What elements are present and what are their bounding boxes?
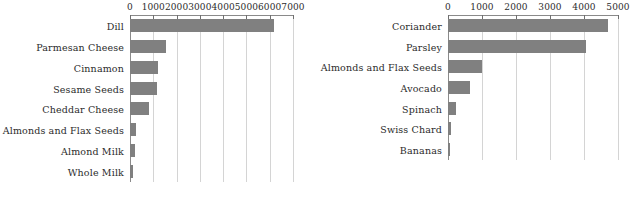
category-label: Parsley bbox=[406, 41, 442, 52]
bar-left-0 bbox=[130, 19, 274, 32]
x-tick-label-left-0: 0 bbox=[127, 2, 133, 13]
category-label: Dill bbox=[107, 20, 124, 31]
bar-right-5 bbox=[448, 122, 451, 135]
x-tick-label-left-5000: 5000 bbox=[235, 2, 258, 13]
x-tick-label-right-1000: 1000 bbox=[470, 2, 493, 13]
x-tick-label-left-6000: 6000 bbox=[258, 2, 281, 13]
chart-panel-right: 010002000300040005000 CorianderParsleyAl… bbox=[310, 0, 637, 198]
x-tick-label-right-3000: 3000 bbox=[538, 2, 561, 13]
bar-right-6 bbox=[448, 143, 450, 156]
bar-left-4 bbox=[130, 102, 149, 115]
x-tick-label-right-5000: 5000 bbox=[606, 2, 629, 13]
x-tick-label-left-7000: 7000 bbox=[281, 2, 304, 13]
plot-area-left: 01000200030004000500060007000 DillParmes… bbox=[130, 15, 293, 182]
category-label: Cheddar Cheese bbox=[42, 103, 124, 114]
bar-right-1 bbox=[448, 40, 586, 53]
gridline-left-7000 bbox=[293, 15, 294, 182]
x-tick-label-left-2000: 2000 bbox=[165, 2, 188, 13]
x-tick-label-right-2000: 2000 bbox=[504, 2, 527, 13]
bar-right-2 bbox=[448, 60, 482, 73]
category-label: Whole Milk bbox=[68, 166, 124, 177]
category-label: Coriander bbox=[392, 20, 442, 31]
x-tick-label-right-4000: 4000 bbox=[572, 2, 595, 13]
category-label: Cinnamon bbox=[74, 62, 124, 73]
bar-row: Sesame Seeds bbox=[130, 82, 293, 95]
bar-row: Cheddar Cheese bbox=[130, 102, 293, 115]
gridline-right-5000 bbox=[618, 15, 619, 160]
x-tick-right-5000 bbox=[618, 15, 619, 19]
category-label: Swiss Chard bbox=[380, 123, 442, 134]
bar-left-1 bbox=[130, 40, 166, 53]
bar-row: Parmesan Cheese bbox=[130, 40, 293, 53]
bar-row: Cinnamon bbox=[130, 61, 293, 74]
bar-row: Almonds and Flax Seeds bbox=[448, 60, 618, 73]
plot-area-right: 010002000300040005000 CorianderParsleyAl… bbox=[448, 15, 618, 160]
bar-row: Coriander bbox=[448, 19, 618, 32]
x-tick-left-7000 bbox=[293, 15, 294, 19]
bar-right-0 bbox=[448, 19, 608, 32]
chart-panel-left: 01000200030004000500060007000 DillParmes… bbox=[0, 0, 310, 198]
x-tick-label-left-3000: 3000 bbox=[188, 2, 211, 13]
bar-left-3 bbox=[130, 82, 157, 95]
category-label: Sesame Seeds bbox=[53, 83, 124, 94]
bar-row: Bananas bbox=[448, 143, 618, 156]
category-label: Almonds and Flax Seeds bbox=[3, 124, 124, 135]
bars-layer-right: CorianderParsleyAlmonds and Flax SeedsAv… bbox=[448, 15, 618, 160]
bar-left-2 bbox=[130, 61, 158, 74]
category-label: Bananas bbox=[400, 144, 442, 155]
category-label: Spinach bbox=[402, 103, 442, 114]
bar-right-3 bbox=[448, 81, 470, 94]
bar-row: Dill bbox=[130, 19, 293, 32]
bar-row: Almond Milk bbox=[130, 144, 293, 157]
bar-row: Swiss Chard bbox=[448, 122, 618, 135]
x-tick-label-right-0: 0 bbox=[445, 2, 451, 13]
bar-left-6 bbox=[130, 144, 135, 157]
category-label: Almonds and Flax Seeds bbox=[321, 61, 442, 72]
x-tick-label-left-4000: 4000 bbox=[211, 2, 234, 13]
x-tick-label-left-1000: 1000 bbox=[142, 2, 165, 13]
bar-row: Parsley bbox=[448, 40, 618, 53]
category-label: Parmesan Cheese bbox=[36, 41, 124, 52]
bar-left-7 bbox=[130, 165, 133, 178]
bar-row: Avocado bbox=[448, 81, 618, 94]
bar-right-4 bbox=[448, 102, 456, 115]
bar-row: Whole Milk bbox=[130, 165, 293, 178]
category-label: Almond Milk bbox=[61, 145, 124, 156]
bar-row: Almonds and Flax Seeds bbox=[130, 123, 293, 136]
bar-row: Spinach bbox=[448, 102, 618, 115]
bars-layer-left: DillParmesan CheeseCinnamonSesame SeedsC… bbox=[130, 15, 293, 182]
bar-left-5 bbox=[130, 123, 136, 136]
category-label: Avocado bbox=[401, 82, 442, 93]
dual-bar-chart-figure: 01000200030004000500060007000 DillParmes… bbox=[0, 0, 637, 198]
